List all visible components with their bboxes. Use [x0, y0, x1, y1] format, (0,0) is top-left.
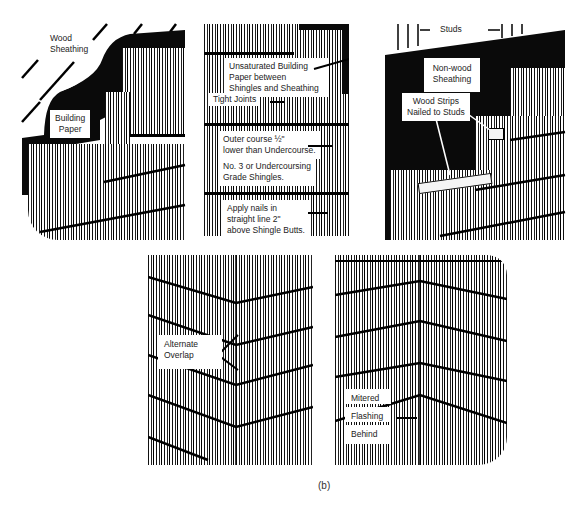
label-tight-joints: Tight Joints: [209, 93, 260, 106]
label-building-paper: Building Paper: [50, 110, 90, 138]
leader-line: [308, 212, 328, 214]
label-mitered: Mitered: [345, 389, 391, 404]
course-lines: [0, 0, 190, 240]
label-unsaturated-paper: Unsaturated Building Paper between Shing…: [224, 58, 329, 97]
panel-nonwood-sheathing: Studs Non-wood Sheathing Wood Strips Nai…: [380, 0, 572, 240]
label-undercoursing-grade: No. 3 or Undercoursing Grade Shingles.: [218, 158, 316, 186]
panel-alternate-overlap: Alternate Overlap: [148, 255, 313, 465]
figure-caption: (b): [318, 480, 330, 491]
label-alternate-overlap: Alternate Overlap: [158, 335, 222, 369]
course-line: [204, 52, 294, 55]
label-flashing: Flashing: [345, 407, 391, 422]
panel-mitered-corner: Mitered Flashing Behind: [335, 255, 507, 465]
label-wood-strips: Wood Strips Nailed to Studs: [402, 93, 470, 121]
course-line: [204, 192, 349, 195]
label-outer-course: Outer course ½" lower than Undercourse.: [218, 131, 321, 159]
course-line: [204, 123, 349, 126]
label-behind: Behind: [345, 425, 391, 444]
label-non-wood-sheathing: Non-wood Sheathing: [424, 58, 480, 92]
leader-line: [308, 145, 332, 147]
label-wood-sheathing: Wood Sheathing: [50, 33, 88, 55]
label-apply-nails: Apply nails in straight line 2" above Sh…: [222, 200, 310, 236]
panel-wood-sheathing: Wood Sheathing Building Paper: [0, 0, 190, 240]
panel-undercourse: Unsaturated Building Paper between Shing…: [204, 24, 349, 236]
leader-line: [270, 101, 284, 103]
